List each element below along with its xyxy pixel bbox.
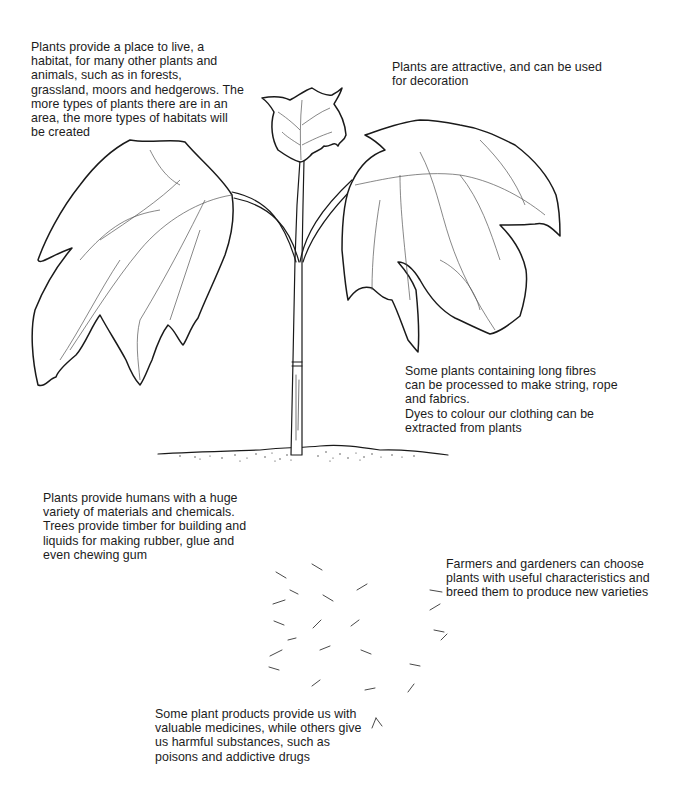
soil-line — [158, 445, 448, 461]
roots — [269, 450, 447, 728]
top-leaf — [262, 88, 346, 162]
stem — [232, 160, 355, 455]
right-leaf — [342, 120, 560, 352]
caption-breeding: Farmers and gardeners can choose plants … — [446, 557, 650, 600]
left-leaf — [32, 140, 233, 386]
caption-materials: Plants provide humans with a huge variet… — [43, 491, 246, 562]
caption-fibres: Some plants containing long fibres can b… — [405, 364, 618, 435]
caption-decoration: Plants are attractive, and can be used f… — [392, 60, 602, 88]
caption-medicines: Some plant products provide us with valu… — [155, 707, 361, 764]
caption-habitat: Plants provide a place to live, a habita… — [31, 40, 244, 139]
